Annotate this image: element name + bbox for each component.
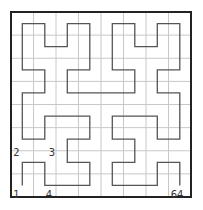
- point-label-1: 1: [13, 190, 19, 200]
- point-label-2: 2: [13, 148, 19, 158]
- point-label-64: 64: [171, 190, 184, 200]
- point-label-3: 3: [49, 148, 55, 158]
- point-label-4: 4: [46, 190, 52, 200]
- hilbert-curve-diagram: [0, 0, 203, 210]
